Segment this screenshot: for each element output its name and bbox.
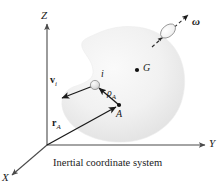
axis-label-y: Y — [209, 138, 215, 149]
figure-caption: Inertial coordinate system — [53, 157, 162, 168]
vector-label-rho-subscript: A — [112, 93, 116, 101]
point-label-g: G — [143, 63, 150, 73]
x-axis — [12, 145, 47, 175]
rigid-body-blob — [62, 27, 185, 143]
axis-label-z: Z — [41, 10, 47, 21]
point-label-a: A — [116, 109, 122, 119]
vector-label-rho-a: ρA — [107, 88, 116, 101]
axis-label-x: X — [2, 172, 9, 183]
vector-label-ra: rA — [52, 118, 61, 131]
vector-label-omega: ω — [192, 16, 200, 27]
point-g-marker — [135, 68, 139, 72]
vector-label-ra-subscript: A — [56, 123, 60, 131]
point-a-marker — [117, 103, 121, 107]
vector-label-vi: vi — [50, 75, 57, 88]
inertial-frame-diagram: Z Y X G A i vi rA ρA ω Inertial coordina… — [0, 0, 221, 185]
point-label-i: i — [101, 69, 104, 79]
particle-i-marker — [90, 80, 99, 89]
vector-label-vi-subscript: i — [55, 80, 57, 88]
